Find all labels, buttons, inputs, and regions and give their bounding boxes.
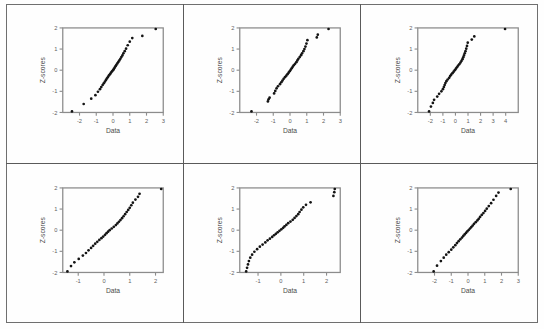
data-point (273, 92, 276, 95)
plot-1-xticklabel: -2 (77, 118, 82, 124)
data-point (82, 103, 85, 106)
data-point (71, 110, 74, 113)
data-point (126, 44, 129, 47)
plot-1-yticklabel: 0 (54, 67, 57, 73)
plot-1-yaxis-label: Z-scores (39, 57, 46, 84)
plot-1-xticklabel: -1 (94, 118, 99, 124)
data-point (131, 201, 134, 204)
plot-3-yticklabel: -2 (407, 110, 412, 116)
data-point (306, 39, 309, 42)
plot-5-xticklabel: 1 (302, 277, 305, 283)
data-point (128, 40, 131, 43)
data-point (310, 200, 313, 203)
plot-2: -2-10123-2-1012DataZ-scores (183, 4, 360, 164)
plot-1-yticklabel: 1 (54, 46, 57, 52)
data-point (77, 257, 80, 260)
data-point (300, 208, 303, 211)
plot-4-yticklabel: 0 (54, 227, 57, 233)
data-point (262, 243, 265, 246)
plot-6-yticklabel: 1 (409, 206, 412, 212)
data-point (269, 96, 272, 99)
plot-2-canvas: -2-10123-2-1012DataZ-scores (183, 4, 360, 164)
plot-3-xticklabel: 1 (466, 118, 469, 124)
data-point (465, 45, 468, 48)
plot-1-xticklabel: 2 (145, 118, 148, 124)
plot-1-points (71, 28, 157, 113)
data-point (249, 256, 252, 259)
plot-6-xticklabel: 0 (466, 277, 469, 283)
plot-3-canvas: -2-101234-2-1012DataZ-scores (361, 4, 538, 164)
data-point (134, 198, 137, 201)
plot-6-yaxis-label: Z-scores (394, 216, 401, 243)
data-point (489, 201, 492, 204)
data-point (487, 204, 490, 207)
data-point (73, 260, 76, 263)
data-point (454, 243, 457, 246)
plot-3-yaxis-label: Z-scores (394, 57, 401, 84)
plot-6-points (432, 187, 512, 272)
panel-grid: -2-10123-2-1012DataZ-scores -2-10123-2-1… (6, 4, 538, 323)
data-point (125, 47, 128, 50)
data-point (494, 194, 497, 197)
data-point (267, 238, 270, 241)
data-point (439, 259, 442, 262)
plot-6-yticklabel: -2 (407, 269, 412, 275)
panel-cell-1: -2-10123-2-1012DataZ-scores (6, 4, 183, 164)
plot-3-xticklabel: -1 (440, 118, 445, 124)
plot-4-xticklabel: -1 (76, 277, 81, 283)
plot-5-xticklabel: 2 (325, 277, 328, 283)
plot-3-xticklabel: 0 (454, 118, 457, 124)
data-point (259, 245, 262, 248)
data-point (509, 187, 512, 190)
data-point (429, 105, 432, 108)
data-point (264, 241, 267, 244)
data-point (160, 187, 163, 190)
plot-5-axes-frame (240, 187, 340, 272)
data-point (447, 250, 450, 253)
data-point (130, 203, 133, 206)
plot-5-yticklabel: -2 (230, 269, 235, 275)
data-point (96, 240, 99, 243)
plot-1-canvas: -2-10123-2-1012DataZ-scores (6, 4, 183, 164)
plot-5-xaxis-label: Data (283, 287, 297, 294)
plot-4-points (66, 187, 162, 272)
plot-1-yticklabel: -1 (52, 88, 57, 94)
data-point (138, 192, 141, 195)
data-point (435, 264, 438, 267)
plot-2-yticklabel: 0 (231, 67, 234, 73)
data-point (269, 237, 272, 240)
panel-cell-2: -2-10123-2-1012DataZ-scores (183, 4, 360, 164)
data-point (470, 38, 473, 41)
plot-2-yaxis-label: Z-scores (217, 57, 224, 84)
data-point (90, 246, 93, 249)
panel-cell-3: -2-101234-2-1012DataZ-scores (361, 4, 538, 164)
data-point (248, 259, 251, 262)
plot-6-xticklabel: 2 (500, 277, 503, 283)
plot-3-yticklabel: 0 (409, 67, 412, 73)
plot-5-points (245, 187, 336, 272)
plot-2-xticklabel: 2 (322, 118, 325, 124)
data-point (466, 41, 469, 44)
data-point (317, 33, 320, 36)
plot-2-xticklabel: 3 (339, 118, 342, 124)
plot-2-xticklabel: -1 (271, 118, 276, 124)
data-point (274, 90, 277, 93)
plot-1-xticklabel: 3 (162, 118, 165, 124)
plot-2-xticklabel: -2 (254, 118, 259, 124)
data-point (465, 47, 468, 50)
data-point (90, 97, 93, 100)
plot-6-xticklabel: -2 (432, 277, 437, 283)
plot-4-canvas: -1012-2-1012DataZ-scores (6, 164, 183, 324)
data-point (131, 37, 134, 40)
plot-3-yticklabel: 1 (409, 46, 412, 52)
plot-5-xticklabel: -1 (256, 277, 261, 283)
data-point (70, 264, 73, 267)
panel-cell-4: -1012-2-1012DataZ-scores (6, 164, 183, 324)
plot-6-yticklabel: -1 (407, 248, 412, 254)
plot-5: -1012-2-1012DataZ-scores (183, 164, 360, 324)
data-point (305, 42, 308, 45)
plot-6-xticklabel: 1 (483, 277, 486, 283)
data-point (450, 248, 453, 251)
data-point (87, 248, 90, 251)
data-point (316, 36, 319, 39)
